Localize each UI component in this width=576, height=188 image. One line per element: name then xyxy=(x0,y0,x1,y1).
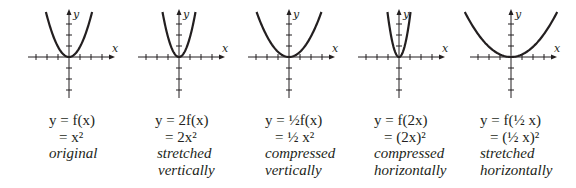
equation-line-1: y = f(x) xyxy=(49,112,97,129)
x-axis-arrow-icon xyxy=(439,55,445,60)
y-axis-label: y xyxy=(72,8,80,21)
equation-line-2: = (2x)² xyxy=(374,129,447,146)
graph-stretched-horizontally: xy xyxy=(465,8,561,98)
description-line-2: vertically xyxy=(155,162,215,179)
graph-compressed-vertically: xy xyxy=(248,8,339,98)
graph-compressed-horizontally: xy xyxy=(358,8,449,98)
y-axis-arrow-icon xyxy=(177,9,182,15)
x-axis-label: x xyxy=(554,42,561,55)
description-line-2: horizontally xyxy=(480,162,553,179)
x-axis-arrow-icon xyxy=(551,55,557,60)
y-axis-arrow-icon xyxy=(287,9,292,15)
x-axis-label: x xyxy=(112,42,119,55)
x-axis-arrow-icon xyxy=(219,55,225,60)
x-axis-label: x xyxy=(222,42,229,55)
x-axis-arrow-icon xyxy=(109,55,115,60)
equation-line-2: = 2x² xyxy=(155,129,215,146)
description-line-1: compressed xyxy=(374,145,447,162)
y-axis-arrow-icon xyxy=(509,9,514,15)
x-axis-label: x xyxy=(332,42,339,55)
description-line-1: stretched xyxy=(155,145,215,162)
y-axis-arrow-icon xyxy=(397,9,402,15)
equation-line-1: y = f(½ x) xyxy=(480,112,553,129)
caption-stretched-horizontally: y = f(½ x) = (½ x)² stretched horizontal… xyxy=(480,112,553,178)
description-line-1: compressed xyxy=(265,145,335,162)
equation-line-1: y = f(2x) xyxy=(374,112,447,129)
y-axis-label: y xyxy=(514,8,522,21)
equation-line-2: = ½ x² xyxy=(265,129,335,146)
x-axis-label: x xyxy=(442,42,449,55)
graph-stretched-vertically: xy xyxy=(138,8,229,98)
equation-line-2: = (½ x)² xyxy=(480,129,553,146)
graph-original: xy xyxy=(28,8,119,98)
equation-line-2: = x² xyxy=(49,129,97,146)
caption-original: y = f(x) = x² original xyxy=(49,112,97,162)
y-axis-arrow-icon xyxy=(67,9,72,15)
y-axis-label: y xyxy=(292,8,300,21)
caption-compressed-vertically: y = ½f(x) = ½ x² compressed vertically xyxy=(265,112,335,178)
equation-line-1: y = ½f(x) xyxy=(265,112,335,129)
description-line-1: original xyxy=(49,145,97,162)
description-line-2: vertically xyxy=(265,162,335,179)
description-line-2: horizontally xyxy=(374,162,447,179)
y-axis-label: y xyxy=(182,8,190,21)
description-line-1: stretched xyxy=(480,145,553,162)
caption-compressed-horizontally: y = f(2x) = (2x)² compressed horizontall… xyxy=(374,112,447,178)
x-axis-arrow-icon xyxy=(329,55,335,60)
caption-stretched-vertically: y = 2f(x) = 2x² stretched vertically xyxy=(155,112,215,178)
equation-line-1: y = 2f(x) xyxy=(155,112,215,129)
